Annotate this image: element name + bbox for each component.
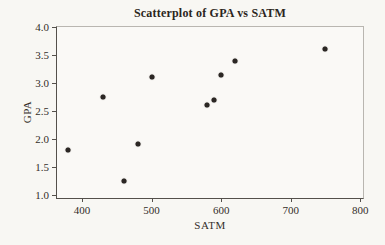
data-point xyxy=(219,72,224,77)
y-axis-tick-label: 3.5 xyxy=(35,49,49,61)
y-axis-tick xyxy=(52,55,56,56)
data-point xyxy=(149,75,154,80)
x-axis-tick xyxy=(291,198,292,202)
data-point xyxy=(135,142,140,147)
x-axis-tick-label: 600 xyxy=(213,204,230,216)
y-axis-tick-label: 1.5 xyxy=(35,161,49,173)
y-axis-tick-label: 2.0 xyxy=(35,133,49,145)
x-axis-tick-label: 800 xyxy=(352,204,369,216)
data-point xyxy=(100,94,105,99)
y-axis-tick-label: 3.0 xyxy=(35,77,49,89)
y-axis-tick xyxy=(52,83,56,84)
y-axis-tick xyxy=(52,111,56,112)
x-axis-tick-label: 400 xyxy=(74,204,91,216)
scatterplot-figure: Scatterplot of GPA vs SATM GPA 400500600… xyxy=(0,0,385,245)
data-point xyxy=(121,178,126,183)
x-axis-tick xyxy=(82,198,83,202)
data-point xyxy=(323,47,328,52)
chart-title: Scatterplot of GPA vs SATM xyxy=(56,6,364,21)
y-axis-label: GPA xyxy=(21,101,33,124)
y-axis-tick xyxy=(52,167,56,168)
data-point xyxy=(205,103,210,108)
plot-area: 4005006007008001.01.52.02.53.03.54.0 xyxy=(56,26,364,199)
y-axis-tick xyxy=(52,195,56,196)
x-axis-tick xyxy=(360,198,361,202)
data-point xyxy=(212,97,217,102)
x-axis-tick xyxy=(152,198,153,202)
x-axis-tick xyxy=(221,198,222,202)
x-axis-tick-label: 500 xyxy=(143,204,160,216)
y-axis-tick-label: 1.0 xyxy=(35,189,49,201)
data-point xyxy=(233,58,238,63)
y-axis-tick xyxy=(52,139,56,140)
x-axis-tick-label: 700 xyxy=(282,204,299,216)
y-axis-tick-label: 4.0 xyxy=(35,21,49,33)
y-axis-tick xyxy=(52,27,56,28)
x-axis-label: SATM xyxy=(56,219,364,231)
data-point xyxy=(66,147,71,152)
y-axis-tick-label: 2.5 xyxy=(35,105,49,117)
